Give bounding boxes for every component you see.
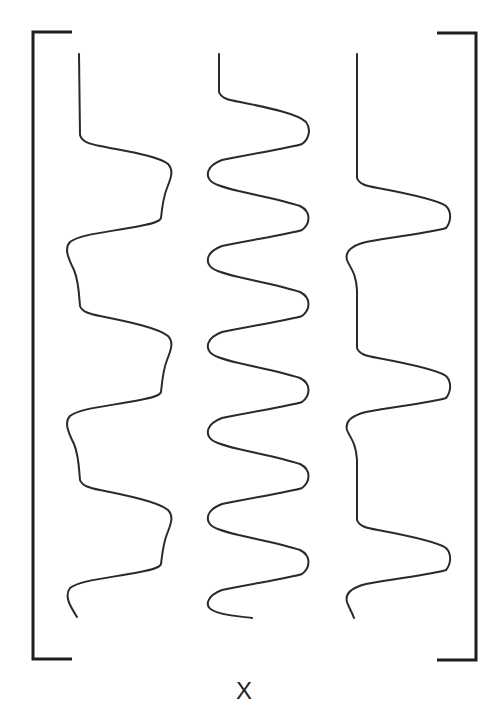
matrix-label: X [236,679,252,703]
waveform-column-3 [347,54,451,618]
right-bracket [437,33,476,660]
waveform-column-2 [208,54,309,618]
waveform-matrix-diagram [0,0,492,727]
waveform-column-1 [67,54,171,617]
left-bracket [33,32,72,659]
